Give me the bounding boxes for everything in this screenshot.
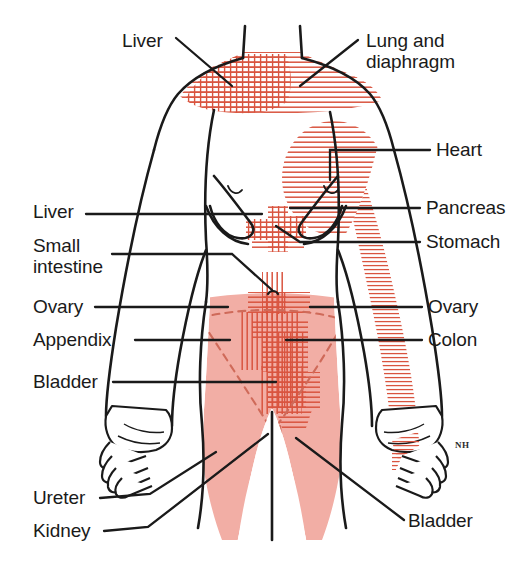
label-pancreas: Pancreas: [426, 197, 505, 218]
pain-region-mid-abdomen: [240, 312, 308, 372]
label-heart: Heart: [436, 139, 482, 160]
label-bladder-left: Bladder: [33, 371, 98, 392]
label-liver-top: Liver: [122, 30, 163, 51]
left-hand: [100, 406, 172, 498]
label-small-intestine: Small intestine: [33, 235, 103, 277]
label-appendix: Appendix: [33, 329, 111, 350]
label-ovary-right: Ovary: [428, 296, 478, 317]
label-liver-mid: Liver: [33, 201, 74, 222]
label-ovary-left: Ovary: [33, 296, 83, 317]
label-colon: Colon: [428, 329, 477, 350]
pain-region-shoulder-liver: [185, 54, 291, 113]
right-hand: [376, 406, 448, 498]
pain-shading-layer: [180, 52, 419, 540]
label-ureter: Ureter: [33, 487, 85, 508]
label-kidney: Kidney: [33, 520, 91, 541]
label-bladder-right: Bladder: [408, 510, 473, 531]
label-stomach: Stomach: [426, 231, 500, 252]
artist-signature: NH: [455, 440, 470, 450]
referred-pain-diagram: Liver Liver Small intestine Ovary Append…: [0, 0, 531, 576]
label-lung-and-diaphragm: Lung and diaphragm: [366, 30, 455, 72]
